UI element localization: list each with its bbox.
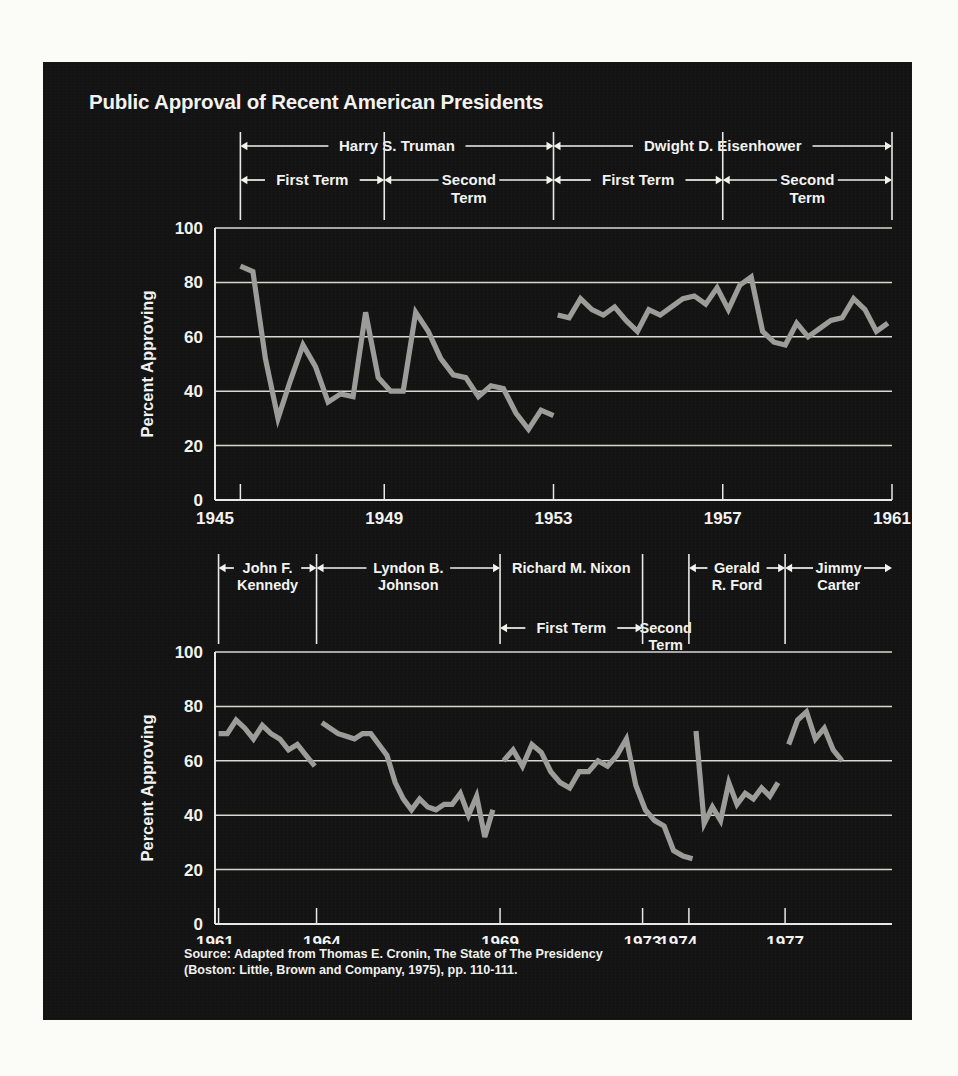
bracket-header: John F.KennedyLyndon B.JohnsonRichard M.… <box>219 560 892 653</box>
y-axis-title: Percent Approving <box>138 715 156 862</box>
bracket-label-line2: Carter <box>817 577 860 593</box>
gridlines <box>215 652 892 870</box>
y-tick-label: 0 <box>194 915 203 934</box>
x-tick-label: 1961 <box>196 933 234 944</box>
y-axis-title: Percent Approving <box>138 291 156 438</box>
x-tick-label: 1961 <box>873 509 911 528</box>
bracket-label: Second <box>442 171 496 188</box>
bracket-label: Richard M. Nixon <box>512 560 630 576</box>
data-line-jimmy-carter <box>789 712 842 761</box>
bracket-arrow-left-icon <box>240 176 247 184</box>
y-tick-label: 100 <box>175 219 203 238</box>
bracket-arrow-right-icon <box>885 564 892 572</box>
data-line-dwight-d-eisenhower <box>558 277 888 345</box>
bracket-arrow-right-icon <box>885 142 892 150</box>
axis-inner-ticks <box>240 484 892 500</box>
bracket-label: Harry S. Truman <box>339 137 455 154</box>
bracket-arrow-left-icon <box>723 176 730 184</box>
bracket-label: First Term <box>602 171 674 188</box>
y-tick-label: 20 <box>184 437 203 456</box>
x-tick-label: 1973 <box>624 933 662 944</box>
bracket-label-line2: Johnson <box>378 577 438 593</box>
bracket-label: First Term <box>536 620 606 636</box>
top-chart-svg: Harry S. TrumanDwight D. EisenhowerFirst… <box>43 124 912 544</box>
bracket-header: Harry S. TrumanDwight D. EisenhowerFirst… <box>240 137 892 206</box>
bracket-arrow-right-icon <box>377 176 384 184</box>
bracket-arrow-left-icon <box>554 142 561 150</box>
x-tick-label: 1974 <box>659 933 697 944</box>
data-series-group <box>219 712 843 859</box>
x-tick-label: 1964 <box>303 933 341 944</box>
bracket-arrow-left-icon <box>500 624 507 632</box>
y-tick-label: 60 <box>184 328 203 347</box>
bracket-arrow-right-icon <box>885 176 892 184</box>
axes <box>215 652 892 924</box>
bottom-chart-svg: John F.KennedyLyndon B.JohnsonRichard M.… <box>43 544 912 944</box>
axis-inner-ticks <box>219 908 786 924</box>
bracket-arrow-left-icon <box>554 176 561 184</box>
y-tick-label: 80 <box>184 273 203 292</box>
y-tick-labels: 020406080100 <box>175 643 203 934</box>
y-tick-label: 40 <box>184 382 203 401</box>
bracket-label-line2: Term <box>649 637 683 653</box>
bracket-label: Jimmy <box>816 560 862 576</box>
bracket-label: Gerald <box>714 560 760 576</box>
bracket-arrow-right-icon <box>547 142 554 150</box>
bracket-arrow-left-icon <box>785 564 792 572</box>
bracket-arrow-left-icon <box>219 564 226 572</box>
x-tick-label: 1957 <box>704 509 742 528</box>
bracket-arrow-left-icon <box>689 564 696 572</box>
bracket-label-line2: Term <box>790 189 826 206</box>
x-tick-labels: 196119641969197319741977 <box>196 924 804 944</box>
bracket-label-line2: Term <box>451 189 487 206</box>
page-title: Public Approval of Recent American Presi… <box>89 90 543 114</box>
data-line-harry-s-truman <box>240 266 553 429</box>
y-tick-label: 60 <box>184 752 203 771</box>
bracket-arrow-right-icon <box>493 564 500 572</box>
y-tick-label: 20 <box>184 861 203 880</box>
bracket-label: Lyndon B. <box>373 560 443 576</box>
page-canvas: Public Approval of Recent American Presi… <box>0 0 958 1076</box>
x-tick-label: 1949 <box>365 509 403 528</box>
bracket-arrow-left-icon <box>317 564 324 572</box>
data-line-gerald-r-ford <box>696 731 778 824</box>
data-line-john-f-kennedy <box>219 720 315 766</box>
y-tick-label: 100 <box>175 643 203 662</box>
y-tick-label: 80 <box>184 697 203 716</box>
x-tick-label: 1977 <box>766 933 804 944</box>
bracket-label-line2: R. Ford <box>712 577 763 593</box>
y-tick-label: 0 <box>194 491 203 510</box>
y-tick-label: 40 <box>184 806 203 825</box>
y-tick-labels: 020406080100 <box>175 219 203 510</box>
bracket-arrow-left-icon <box>384 176 391 184</box>
bracket-arrow-right-icon <box>716 176 723 184</box>
bracket-label: Second <box>780 171 834 188</box>
bracket-label-line2: Kennedy <box>237 577 298 593</box>
chart-panel: Public Approval of Recent American Presi… <box>43 62 912 1020</box>
bottom-chart: John F.KennedyLyndon B.JohnsonRichard M.… <box>43 544 912 944</box>
source-note: Source: Adapted from Thomas E. Cronin, T… <box>184 946 603 978</box>
x-tick-label: 1945 <box>196 509 234 528</box>
bracket-arrow-right-icon <box>310 564 317 572</box>
data-line-lyndon-b-johnson <box>322 723 493 837</box>
data-line-richard-m-nixon <box>504 739 693 859</box>
x-tick-label: 1953 <box>535 509 573 528</box>
bracket-arrow-left-icon <box>240 142 247 150</box>
bracket-label: First Term <box>276 171 348 188</box>
x-tick-label: 1969 <box>481 933 519 944</box>
data-series-group <box>240 266 887 429</box>
top-chart: Harry S. TrumanDwight D. EisenhowerFirst… <box>43 124 912 544</box>
bracket-arrow-right-icon <box>778 564 785 572</box>
bracket-label: Second <box>640 620 692 636</box>
bracket-label: John F. <box>243 560 293 576</box>
bracket-arrow-right-icon <box>547 176 554 184</box>
x-tick-labels: 19451949195319571961 <box>196 500 911 528</box>
